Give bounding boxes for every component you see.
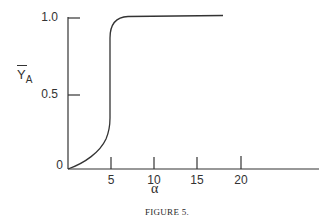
y-tick-label-1.0: 1.0: [28, 11, 58, 23]
y-tick-label-0.5: 0.5: [28, 88, 58, 100]
x-tick-label-5: 5: [99, 174, 123, 186]
series-line-ya: [68, 16, 223, 170]
x-axis-label: α: [151, 181, 158, 197]
overline: [17, 65, 27, 66]
y-axis-label-main: Y: [17, 67, 26, 82]
y-axis-label-sub: A: [26, 74, 33, 85]
chart-plot-area: [0, 0, 334, 220]
y-tick-label-0: 0: [33, 159, 63, 171]
x-tick-label-15: 15: [185, 174, 209, 186]
figure-caption: FIGURE 5.: [0, 207, 334, 217]
y-axis-label: YA: [17, 67, 32, 82]
x-tick-label-20: 20: [229, 174, 253, 186]
